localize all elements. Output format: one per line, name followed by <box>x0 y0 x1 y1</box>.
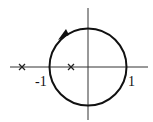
label-neg-one: -1 <box>35 75 47 89</box>
label-pos-one: 1 <box>128 75 135 89</box>
diagram-canvas <box>0 0 153 122</box>
